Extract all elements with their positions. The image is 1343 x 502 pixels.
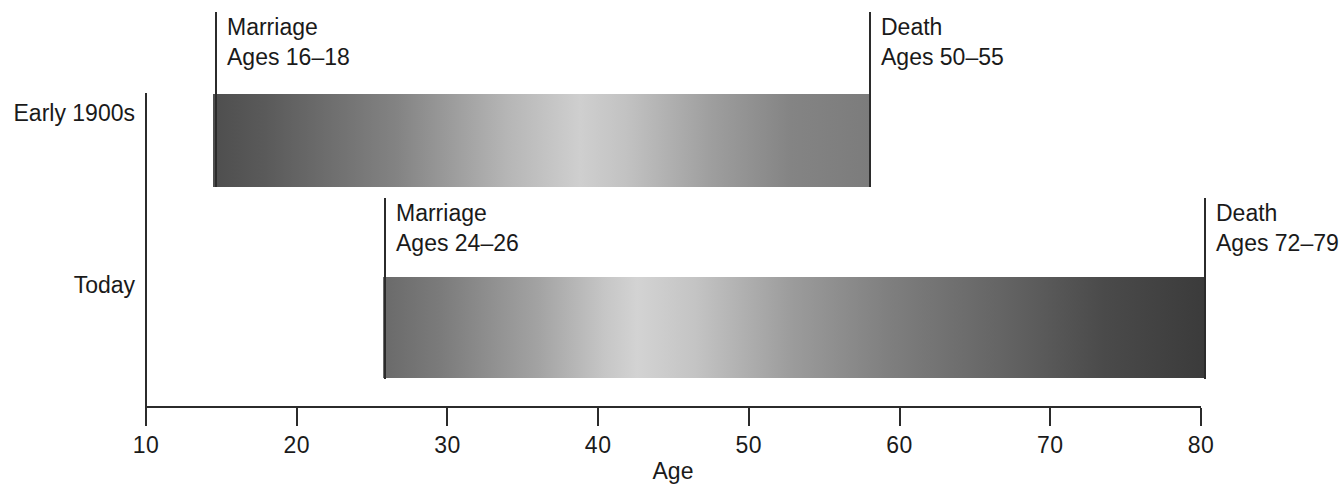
annotation-death-today: Death Ages 72–79 [1216, 198, 1339, 258]
lifespan-chart: Early 1900s Today Marriage Ages 16–18 De… [0, 0, 1343, 502]
marker-line-marriage-today [384, 198, 386, 379]
marker-line-death-early-1900s [869, 12, 871, 187]
annotation-ages-label: Ages 24–26 [396, 228, 519, 258]
annotation-event-label: Death [1216, 198, 1339, 228]
x-axis-tick-label-30: 30 [434, 432, 461, 459]
annotation-event-label: Marriage [396, 198, 519, 228]
x-axis-tick-label-40: 40 [585, 432, 612, 459]
x-axis-tick-label-10: 10 [133, 432, 160, 459]
annotation-ages-label: Ages 16–18 [227, 42, 350, 72]
x-axis-tick-70 [1049, 408, 1051, 426]
bar-early-1900s [213, 94, 869, 187]
x-axis-tick-50 [748, 408, 750, 426]
marker-line-marriage-early-1900s [215, 12, 217, 187]
x-axis-tick-label-20: 20 [283, 432, 310, 459]
category-label-early-1900s: Early 1900s [14, 100, 135, 127]
category-label-today: Today [74, 272, 135, 299]
x-axis-tick-30 [446, 408, 448, 426]
annotation-ages-label: Ages 50–55 [881, 42, 1004, 72]
x-axis-tick-80 [1200, 408, 1202, 426]
annotation-marriage-today: Marriage Ages 24–26 [396, 198, 519, 258]
x-axis-tick-label-80: 80 [1188, 432, 1215, 459]
x-axis-line [145, 406, 1201, 408]
annotation-death-early-1900s: Death Ages 50–55 [881, 12, 1004, 72]
x-axis-tick-label-50: 50 [736, 432, 763, 459]
x-axis-tick-40 [597, 408, 599, 426]
x-axis-tick-60 [899, 408, 901, 426]
annotation-marriage-early-1900s: Marriage Ages 16–18 [227, 12, 350, 72]
annotation-event-label: Death [881, 12, 1004, 42]
y-axis-line [145, 93, 147, 426]
bar-today [383, 277, 1204, 378]
x-axis-tick-label-70: 70 [1037, 432, 1064, 459]
annotation-ages-label: Ages 72–79 [1216, 228, 1339, 258]
x-axis-tick-20 [296, 408, 298, 426]
marker-line-death-today [1204, 198, 1206, 379]
annotation-event-label: Marriage [227, 12, 350, 42]
x-axis-tick-label-60: 60 [886, 432, 913, 459]
x-axis-tick-10 [145, 408, 147, 426]
x-axis-title: Age [653, 458, 694, 485]
